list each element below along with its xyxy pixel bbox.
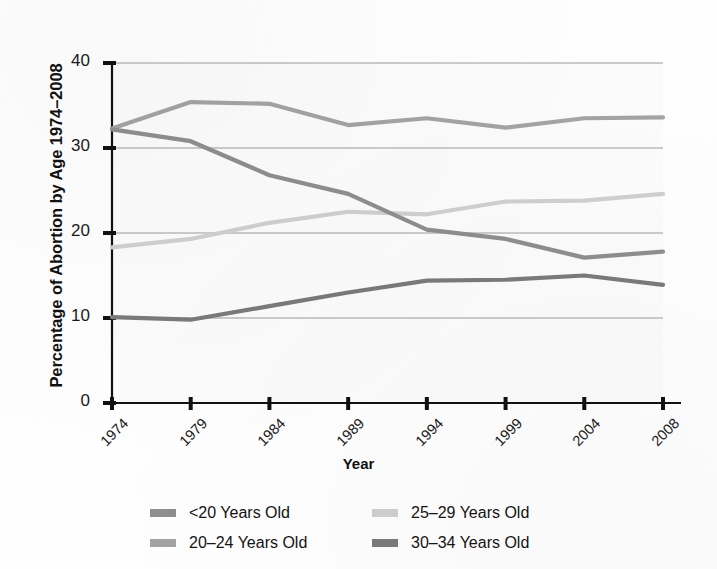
chart-figure: Percentage of Abortion by Age 1974–2008 … [0,0,717,569]
legend-swatch-icon [150,539,176,547]
legend-label: 30–34 Years Old [411,534,529,552]
legend-label: 25–29 Years Old [411,504,529,522]
legend-item: <20 Years Old [150,504,372,522]
chart-legend: <20 Years Old25–29 Years Old20–24 Years … [150,498,590,558]
y-tick-label-10: 10 [46,306,90,326]
line-chart-plot [0,0,717,569]
y-tick-label-30: 30 [46,136,90,156]
legend-item: 30–34 Years Old [372,534,594,552]
legend-item: 20–24 Years Old [150,534,372,552]
legend-label: <20 Years Old [189,504,290,522]
y-tick-label-40: 40 [46,51,90,71]
x-axis-title: Year [0,455,717,472]
legend-swatch-icon [372,509,398,517]
legend-label: 20–24 Years Old [189,534,307,552]
y-axis-tick-labels: 010203040 [44,0,90,440]
legend-swatch-icon [372,539,398,547]
legend-swatch-icon [150,509,176,517]
y-tick-label-20: 20 [46,221,90,241]
y-tick-label-0: 0 [46,391,90,411]
legend-item: 25–29 Years Old [372,504,594,522]
